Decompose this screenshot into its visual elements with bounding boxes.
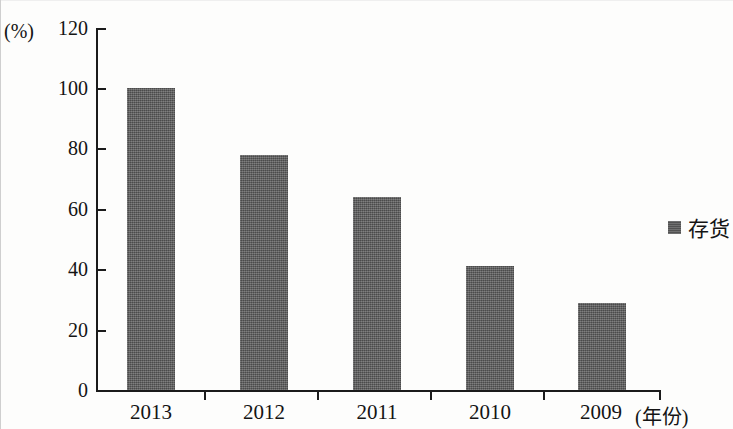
y-tick-mark-80 xyxy=(97,148,106,150)
y-tick-label-40: 40 xyxy=(36,258,88,281)
y-tick-label-20: 20 xyxy=(36,319,88,342)
y-tick-mark-60 xyxy=(97,209,106,211)
x-tick-label-2013: 2013 xyxy=(130,400,172,425)
y-tick-mark-120 xyxy=(97,28,106,30)
bar-2012 xyxy=(240,155,288,390)
x-tick-label-2012: 2012 xyxy=(243,400,285,425)
bar-chart: (%) 120 100 80 60 40 20 0 2013 2012 2011… xyxy=(0,0,733,429)
inventory-swatch-icon xyxy=(668,221,681,234)
x-tick-label-2009: 2009 xyxy=(580,400,622,425)
legend-label-inventory: 存货 xyxy=(688,212,730,242)
bar-2009 xyxy=(578,303,626,390)
x-tick-label-2011: 2011 xyxy=(356,400,397,425)
x-separator-tick-2 xyxy=(317,391,319,400)
y-tick-label-80: 80 xyxy=(36,137,88,160)
x-axis-line xyxy=(96,390,661,392)
y-tick-mark-100 xyxy=(97,88,106,90)
y-tick-label-120: 120 xyxy=(36,17,88,40)
y-tick-label-0: 0 xyxy=(36,379,88,402)
x-axis-name-label: (年份) xyxy=(635,401,688,429)
y-tick-label-60: 60 xyxy=(36,198,88,221)
x-separator-tick-1 xyxy=(204,391,206,400)
bar-2013 xyxy=(127,88,175,390)
x-tick-label-2010: 2010 xyxy=(469,400,511,425)
y-tick-mark-40 xyxy=(97,269,106,271)
x-separator-tick-3 xyxy=(430,391,432,400)
chart-legend: 存货 xyxy=(668,212,730,242)
y-tick-mark-20 xyxy=(97,330,106,332)
y-axis-unit-label: (%) xyxy=(4,20,34,43)
y-tick-mark-0 xyxy=(97,390,106,392)
y-tick-label-100: 100 xyxy=(36,77,88,100)
x-separator-tick-4 xyxy=(543,391,545,400)
bar-2011 xyxy=(353,197,401,390)
bar-2010 xyxy=(466,266,514,390)
x-separator-tick-5 xyxy=(659,391,661,400)
